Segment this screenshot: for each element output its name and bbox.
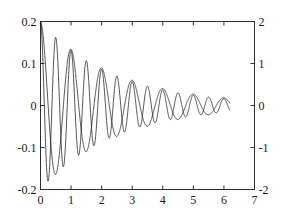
chart-figure: 0.20.10-0.1-0.2 210-1-2 01234567 (0, 0, 289, 218)
right-tick-label-2: 0 (259, 100, 265, 112)
right-tick-label-0: 2 (259, 16, 265, 28)
bottom-tick-label-1: 1 (68, 194, 74, 206)
bottom-tick-label-3: 3 (129, 194, 135, 206)
curve-fast-damped-oscillation (41, 22, 231, 182)
axis-ticks (41, 22, 255, 190)
left-tick-label-3: -0.1 (18, 142, 37, 154)
left-tick-label-4: -0.2 (18, 184, 37, 196)
bottom-tick-label-0: 0 (38, 194, 44, 206)
bottom-tick-label-4: 4 (160, 194, 166, 206)
right-tick-label-3: -1 (259, 142, 269, 154)
left-tick-label-2: 0 (31, 100, 37, 112)
bottom-tick-label-7: 7 (252, 194, 258, 206)
bottom-tick-label-5: 5 (190, 194, 196, 206)
data-curves (41, 22, 231, 182)
plot-canvas (0, 0, 289, 218)
right-tick-label-4: -2 (259, 184, 269, 196)
right-tick-label-1: 1 (259, 58, 265, 70)
axes-box (41, 22, 255, 190)
left-tick-label-1: 0.1 (22, 58, 37, 70)
bottom-tick-label-6: 6 (221, 194, 227, 206)
bottom-tick-label-2: 2 (99, 194, 105, 206)
left-tick-label-0: 0.2 (22, 16, 37, 28)
